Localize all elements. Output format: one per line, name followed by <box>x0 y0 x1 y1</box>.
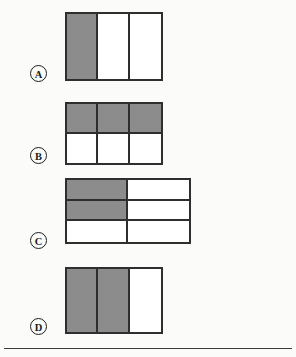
bottom-divider <box>4 348 292 349</box>
shaded-cell <box>98 104 129 134</box>
shape-b-grid[interactable] <box>65 102 163 165</box>
unshaded-cell <box>67 221 128 242</box>
shaded-cell <box>98 269 129 332</box>
option-label-d[interactable]: D <box>30 318 47 335</box>
shaded-cell <box>130 104 161 134</box>
shape-d-grid[interactable] <box>65 267 163 334</box>
option-label-a[interactable]: A <box>30 65 47 82</box>
shaded-cell <box>67 201 128 222</box>
option-label-b[interactable]: B <box>30 147 47 164</box>
unshaded-cell <box>98 134 129 164</box>
unshaded-cell <box>130 269 161 332</box>
unshaded-cell <box>128 180 189 201</box>
fraction-options-figure: A B C D <box>0 0 296 357</box>
shaded-cell <box>67 269 98 332</box>
option-label-c[interactable]: C <box>30 232 47 249</box>
shaded-cell <box>67 180 128 201</box>
unshaded-cell <box>128 221 189 242</box>
unshaded-cell <box>67 134 98 164</box>
unshaded-cell <box>130 14 161 79</box>
shaded-cell <box>67 14 98 79</box>
shape-a-grid[interactable] <box>65 12 163 81</box>
unshaded-cell <box>130 134 161 164</box>
unshaded-cell <box>128 201 189 222</box>
shaded-cell <box>67 104 98 134</box>
shape-c-grid[interactable] <box>65 178 191 244</box>
unshaded-cell <box>98 14 129 79</box>
